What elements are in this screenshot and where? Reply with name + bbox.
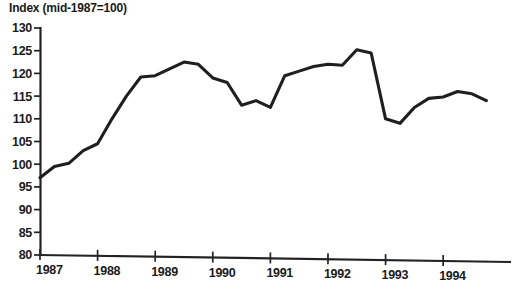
y-tick-label: 125 [12, 44, 32, 58]
y-tick-label: 95 [19, 180, 33, 194]
x-tick-label: 1991 [266, 266, 293, 280]
y-tick-label: 100 [12, 158, 32, 172]
line-chart-plot: 80859095100105110115120125130 1987198819… [0, 0, 513, 285]
x-tick-label: 1993 [382, 268, 409, 282]
x-tick-label: 1988 [94, 264, 121, 278]
chart-container: Index (mid-1987=100) 8085909510010511011… [0, 0, 513, 285]
y-tick-label: 130 [12, 21, 32, 35]
y-tick-label: 110 [13, 112, 33, 126]
y-tick-label: 80 [19, 248, 33, 262]
y-tick-label: 105 [12, 135, 32, 149]
x-tick-label: 1987 [36, 263, 63, 277]
x-axis-labels: 19871988198919901991199219931994 [36, 263, 466, 283]
y-axis-labels: 80859095100105110115120125130 [12, 21, 32, 262]
y-tick-label: 120 [12, 67, 32, 81]
x-tick-label: 1989 [151, 265, 178, 279]
data-series-line [40, 50, 486, 178]
y-tick-label: 115 [13, 90, 33, 104]
y-tick-label: 90 [19, 203, 33, 217]
x-axis-line [39, 255, 511, 262]
x-tick-label: 1992 [324, 267, 351, 281]
x-tick-label: 1994 [439, 269, 466, 283]
x-tick-label: 1990 [209, 266, 236, 280]
y-tick-label: 85 [19, 226, 33, 240]
